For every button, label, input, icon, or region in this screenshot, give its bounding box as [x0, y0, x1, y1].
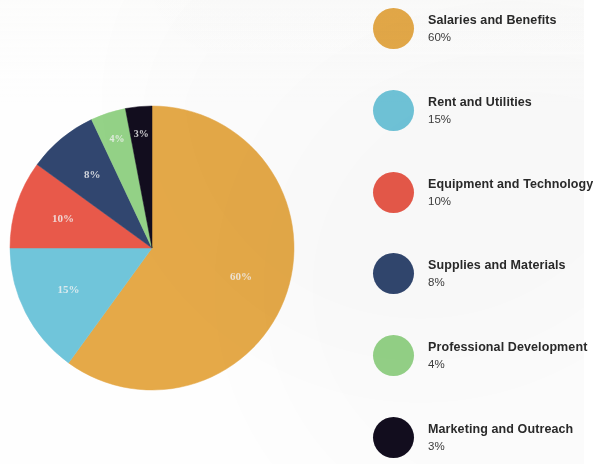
legend-text-block: Rent and Utilities15% — [428, 94, 532, 127]
legend-color-swatch-icon — [373, 253, 414, 294]
pie-slice-label: 10% — [52, 212, 74, 224]
legend-item[interactable]: Marketing and Outreach3% — [370, 409, 584, 464]
legend-item[interactable]: Supplies and Materials8% — [370, 245, 584, 301]
legend-item-label: Salaries and Benefits — [428, 12, 557, 28]
legend-item[interactable]: Rent and Utilities15% — [370, 82, 584, 138]
legend-color-swatch-icon — [373, 172, 414, 213]
legend-color-swatch-icon — [373, 417, 414, 458]
pie-slice-group — [10, 106, 294, 390]
legend-color-swatch-icon — [373, 90, 414, 131]
pie-slice-label: 4% — [109, 133, 124, 144]
legend-color-swatch-icon — [373, 8, 414, 49]
legend-item[interactable]: Equipment and Technology10% — [370, 164, 584, 220]
legend-text-block: Equipment and Technology10% — [428, 176, 593, 209]
legend-text-block: Salaries and Benefits60% — [428, 12, 557, 45]
legend-text-block: Supplies and Materials8% — [428, 257, 566, 290]
pie-slice-label: 8% — [84, 168, 101, 180]
legend-item-percent: 15% — [428, 111, 532, 127]
legend-item-label: Supplies and Materials — [428, 257, 566, 273]
pie-slice-label: 15% — [58, 283, 80, 295]
pie-chart-plot-area: 60%15%10%8%4%3% — [0, 60, 370, 420]
legend-item-label: Equipment and Technology — [428, 176, 593, 192]
legend-item-percent: 4% — [428, 356, 587, 372]
legend-item-label: Professional Development — [428, 339, 587, 355]
legend-text-block: Marketing and Outreach3% — [428, 421, 573, 454]
legend-item-label: Marketing and Outreach — [428, 421, 573, 437]
legend-item[interactable]: Salaries and Benefits60% — [370, 0, 584, 56]
chart-legend: Salaries and Benefits60%Rent and Utiliti… — [370, 0, 584, 464]
legend-color-swatch-icon — [373, 335, 414, 376]
pie-slice-label: 3% — [134, 128, 149, 139]
legend-text-block: Professional Development4% — [428, 339, 587, 372]
pie-chart-svg: 60%15%10%8%4%3% — [0, 60, 370, 420]
pie-slice-label: 60% — [230, 270, 252, 282]
legend-item-percent: 3% — [428, 438, 573, 454]
legend-item-percent: 8% — [428, 274, 566, 290]
legend-item-percent: 60% — [428, 29, 557, 45]
legend-item[interactable]: Professional Development4% — [370, 327, 584, 383]
legend-item-label: Rent and Utilities — [428, 94, 532, 110]
legend-item-percent: 10% — [428, 193, 593, 209]
